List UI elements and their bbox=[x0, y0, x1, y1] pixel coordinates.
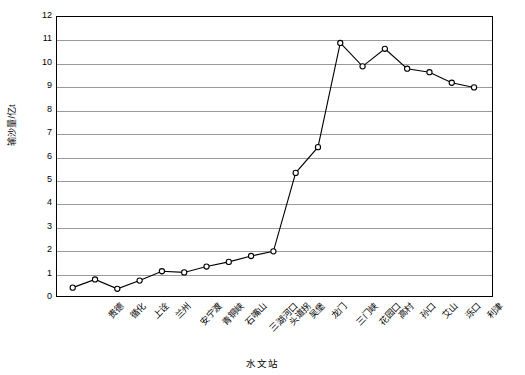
data-point-marker bbox=[427, 70, 432, 75]
data-point-marker bbox=[137, 278, 142, 283]
series-layer bbox=[0, 0, 525, 375]
data-point-marker bbox=[293, 170, 298, 175]
data-point-marker bbox=[226, 259, 231, 264]
data-point-marker bbox=[271, 249, 276, 254]
data-point-marker bbox=[92, 277, 97, 282]
data-point-marker bbox=[159, 269, 164, 274]
data-point-marker bbox=[315, 145, 320, 150]
data-point-marker bbox=[405, 66, 410, 71]
x-axis-title: 水文站 bbox=[0, 356, 525, 370]
data-point-marker bbox=[248, 253, 253, 258]
data-point-marker bbox=[449, 80, 454, 85]
series-markers bbox=[70, 40, 477, 291]
data-point-marker bbox=[115, 286, 120, 291]
chart-container: 输沙量/亿t 0123456789101112 贵德循化上诠兰州安宁渡青铜峡石嘴… bbox=[0, 0, 525, 375]
data-point-marker bbox=[360, 64, 365, 69]
data-point-marker bbox=[182, 270, 187, 275]
data-point-marker bbox=[471, 85, 476, 90]
data-point-marker bbox=[338, 40, 343, 45]
data-point-marker bbox=[382, 46, 387, 51]
data-point-marker bbox=[70, 285, 75, 290]
data-point-marker bbox=[204, 264, 209, 269]
